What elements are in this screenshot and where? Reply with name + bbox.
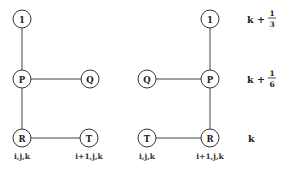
level-base: k +: [247, 14, 265, 25]
right-diagram: 1 P Q R T i,j,k i+1,j,k: [138, 10, 225, 161]
node-label: P: [207, 75, 214, 85]
left-diagram: 1 P Q R T i,j,k i+1,j,k: [13, 10, 104, 161]
coord-label-t-left: i+1,j,k: [75, 152, 103, 161]
node-1-right: 1: [201, 10, 219, 28]
level-label-top: k + 1 3: [247, 9, 276, 29]
node-label: T: [86, 134, 93, 144]
node-label: Q: [86, 75, 94, 85]
fraction-denominator: 6: [269, 80, 274, 89]
node-label: 1: [207, 15, 213, 25]
node-label: 1: [19, 15, 25, 25]
level-base: k +: [247, 74, 265, 85]
coord-label-t-right: i,j,k: [139, 152, 156, 161]
node-label: P: [19, 75, 26, 85]
level-label-middle: k + 1 6: [247, 69, 276, 89]
fraction-denominator: 3: [269, 20, 274, 29]
fraction-numerator: 1: [269, 9, 274, 18]
node-p-left: P: [13, 70, 31, 88]
node-label: R: [18, 134, 26, 144]
node-p-right: P: [201, 70, 219, 88]
stencil-diagram: 1 P Q R T i,j,k i+1,j,k 1: [0, 0, 286, 174]
coord-label-r-left: i,j,k: [14, 152, 31, 161]
node-r-left: R: [13, 129, 31, 147]
node-label: R: [206, 134, 214, 144]
level-base: k: [248, 133, 255, 144]
node-q-left: Q: [81, 70, 99, 88]
node-t-left: T: [80, 129, 98, 147]
node-label: Q: [143, 75, 151, 85]
node-label: T: [144, 134, 151, 144]
node-t-right: T: [138, 129, 156, 147]
level-label-bottom: k: [248, 133, 255, 144]
node-r-right: R: [201, 129, 219, 147]
node-1-left: 1: [13, 10, 31, 28]
fraction-numerator: 1: [269, 69, 274, 78]
coord-label-r-right: i+1,j,k: [196, 152, 224, 161]
node-q-right: Q: [138, 70, 156, 88]
